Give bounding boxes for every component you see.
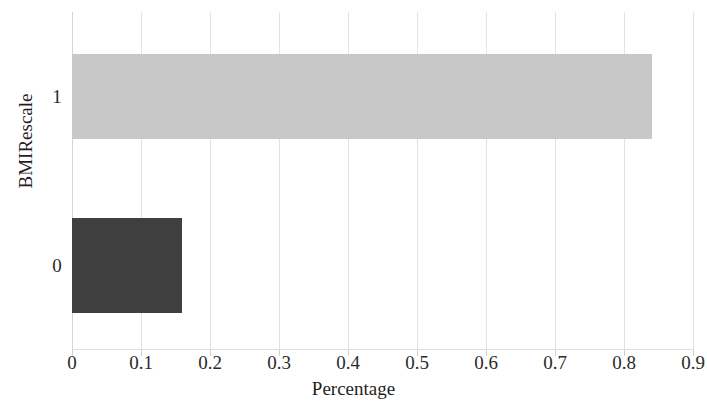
bar-1 <box>72 54 652 139</box>
x-tick-label-0.7: 0.7 <box>543 352 567 374</box>
gridline-x-0.9 <box>693 12 694 350</box>
x-tick-label-0.4: 0.4 <box>336 352 360 374</box>
x-tick-label-0.9: 0.9 <box>681 352 705 374</box>
y-tick-label-0: 0 <box>48 255 66 277</box>
x-tick-label-0.3: 0.3 <box>267 352 291 374</box>
bar-chart: 00.10.20.30.40.50.60.70.80.9 10 Percenta… <box>0 0 707 405</box>
x-tick-label-0.2: 0.2 <box>198 352 222 374</box>
y-tick-label-1: 1 <box>48 86 66 108</box>
x-tick-label-0.8: 0.8 <box>612 352 636 374</box>
x-tick-label-0.6: 0.6 <box>474 352 498 374</box>
x-axis-title: Percentage <box>0 378 707 400</box>
y-axis-title: BMIRescale <box>15 41 37 241</box>
x-tick-label-0: 0 <box>67 352 77 374</box>
bar-0 <box>72 218 182 313</box>
x-axis-line <box>72 349 693 350</box>
x-tick-label-0.5: 0.5 <box>405 352 429 374</box>
plot-area <box>72 12 693 350</box>
x-tick-label-0.1: 0.1 <box>129 352 153 374</box>
